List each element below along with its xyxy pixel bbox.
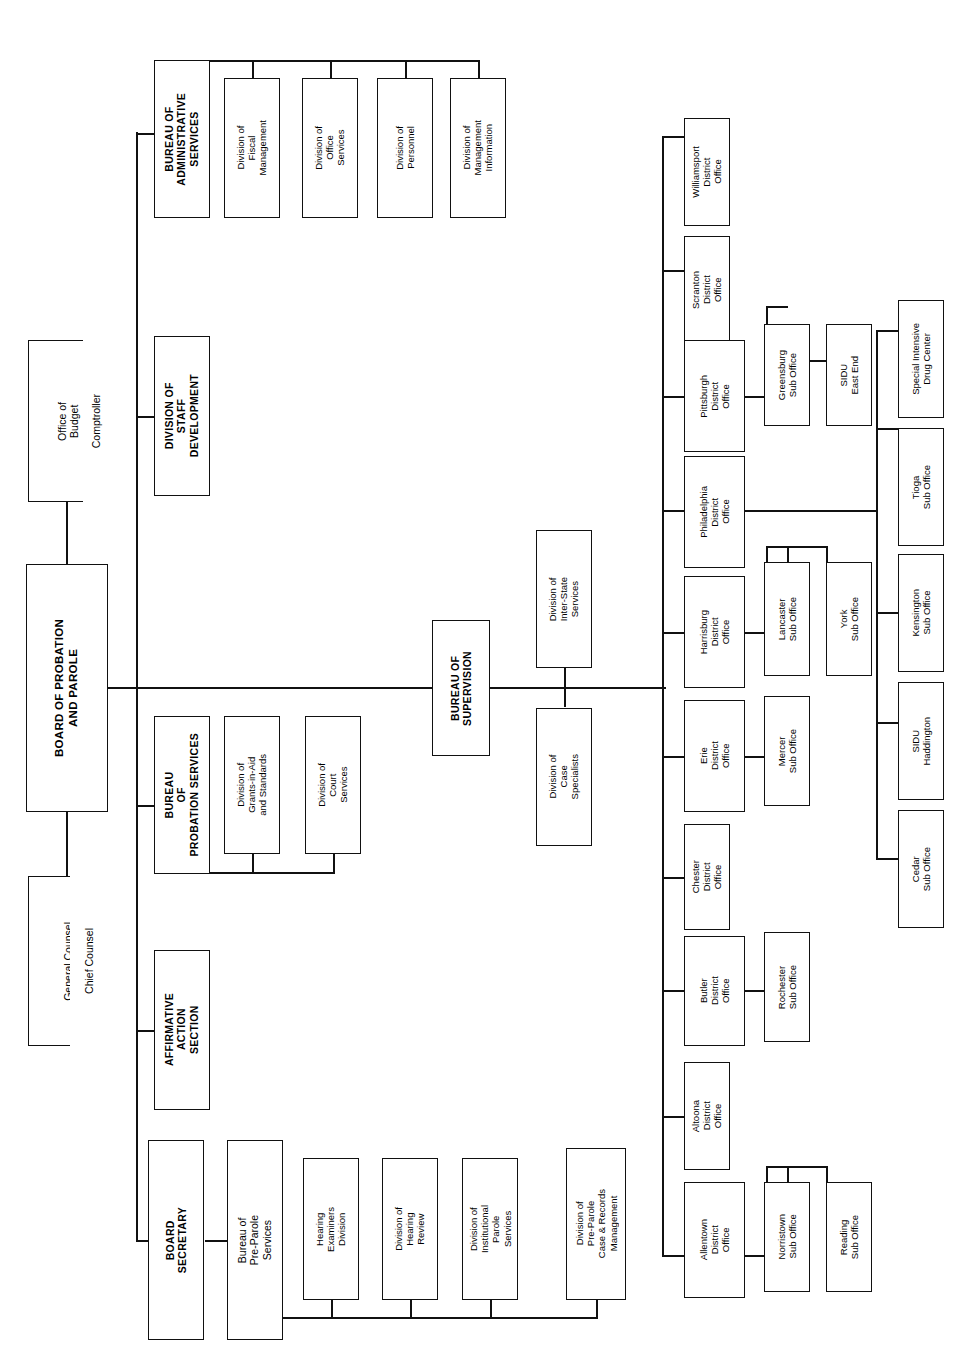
node-label: Allentown District Office	[698, 1219, 732, 1260]
node-label: Rochester Sub Office	[776, 965, 798, 1009]
node-allentown-district-office[interactable]: Allentown District Office	[684, 1182, 745, 1298]
node-board-of-probation-and-parole[interactable]: BOARD OF PROBATION AND PAROLE	[26, 564, 108, 812]
node-hearing-examiners-division[interactable]: Hearing Examiners Division	[303, 1158, 359, 1300]
node-harrisburg-district-office[interactable]: Harrisburg District Office	[684, 576, 745, 688]
node-label: Scranton District Office	[690, 271, 724, 309]
node-label: Division of Fiscal Management	[235, 120, 269, 175]
riser-interstate	[564, 668, 566, 688]
node-label: Division of Institutional Parole Service…	[468, 1205, 513, 1253]
node-cedar-sub-office[interactable]: Cedar Sub Office	[898, 810, 944, 928]
connector-supervision-right	[490, 687, 666, 689]
node-scranton-district-office[interactable]: Scranton District Office	[684, 236, 730, 344]
node-greensburg-sub-office[interactable]: Greensburg Sub Office	[764, 324, 810, 426]
node-bureau-of-supervision[interactable]: BUREAU OF SUPERVISION	[432, 620, 490, 756]
node-erie-district-office[interactable]: Erie District Office	[684, 700, 745, 812]
node-label: Williamsport District Office	[690, 146, 724, 198]
node-tioga-sub-office[interactable]: Tioga Sub Office	[898, 428, 944, 546]
phl-to-special-intensive	[876, 330, 900, 332]
bus-bar-admin	[196, 60, 480, 62]
node-williamsport-district-office[interactable]: Williamsport District Office	[684, 118, 730, 226]
node-label: Mercer Sub Office	[776, 729, 798, 773]
stub-williamsport	[662, 136, 684, 138]
drop-fiscal	[252, 60, 254, 78]
connector-board-to-budget	[66, 500, 68, 564]
node-division-of-grants-in-aid-and-standards[interactable]: Division of Grants-in-Aid and Standards	[224, 716, 280, 854]
node-label: Hearing Examiners Division	[314, 1207, 348, 1252]
stub-scranton	[662, 270, 684, 272]
node-board-secretary[interactable]: BOARD SECRETARY	[148, 1140, 204, 1340]
node-division-of-case-specialists[interactable]: Division of Case Specialists	[536, 708, 592, 846]
stub-pittsburgh	[662, 396, 684, 398]
node-chief-counsel[interactable]: Chief Counsel	[70, 876, 108, 1046]
node-label: BUREAU OF PROBATION SERVICES	[163, 733, 200, 856]
erie-to-mercer	[745, 756, 765, 758]
node-division-of-personnel[interactable]: Division of Personnel	[377, 78, 433, 218]
node-division-of-court-services[interactable]: Division of Court Services	[305, 716, 361, 854]
butler-to-rochester	[745, 990, 765, 992]
node-division-of-inter-state-services[interactable]: Division of Inter-State Services	[536, 530, 592, 668]
node-label: Division of Personnel	[394, 126, 416, 170]
district-spine	[662, 136, 664, 1256]
riser-case-specialists	[564, 687, 566, 707]
node-bureau-of-probation-services[interactable]: BUREAU OF PROBATION SERVICES	[154, 716, 210, 874]
node-label: Norristown Sub Office	[776, 1214, 798, 1259]
node-york-sub-office[interactable]: York Sub Office	[826, 562, 872, 676]
drop-hearing-examiners	[331, 1299, 333, 1318]
stub-chester	[662, 877, 684, 879]
node-label: SIDU Haddington	[910, 717, 932, 766]
node-division-of-fiscal-management[interactable]: Division of Fiscal Management	[224, 78, 280, 218]
stub-allentown	[662, 1255, 684, 1257]
node-label: Reading Sub Office	[838, 1215, 860, 1259]
stub-harrisburg	[662, 632, 684, 634]
phl-to-tioga	[876, 428, 900, 430]
node-chester-district-office[interactable]: Chester District Office	[684, 824, 730, 930]
drop-court-services	[333, 853, 335, 873]
phl-to-kensington	[876, 612, 900, 614]
node-label: Pittsburgh District Office	[698, 375, 732, 418]
node-label: Division of Grants-in-Aid and Standards	[235, 754, 269, 816]
stub-philadelphia	[662, 510, 684, 512]
stub-staff-dev	[136, 416, 154, 418]
drop-personnel	[405, 60, 407, 78]
connector-board-to-counsel	[66, 812, 68, 876]
node-mercer-sub-office[interactable]: Mercer Sub Office	[764, 696, 810, 806]
node-rochester-sub-office[interactable]: Rochester Sub Office	[764, 932, 810, 1042]
node-reading-sub-office[interactable]: Reading Sub Office	[826, 1182, 872, 1292]
node-special-intensive-drug-center[interactable]: Special Intensive Drug Center	[898, 300, 944, 418]
node-label: York Sub Office	[838, 597, 860, 641]
node-butler-district-office[interactable]: Butler District Office	[684, 936, 745, 1046]
node-altoona-district-office[interactable]: Altoona District Office	[684, 1062, 730, 1170]
harrisburg-to-york	[766, 546, 828, 548]
connector-board-to-trunk	[106, 687, 138, 689]
node-division-of-management-information[interactable]: Division of Management Information	[450, 78, 506, 218]
node-label: Chief Counsel	[83, 928, 95, 994]
node-division-of-staff-development[interactable]: DIVISION OF STAFF DEVELOPMENT	[154, 336, 210, 496]
node-kensington-sub-office[interactable]: Kensington Sub Office	[898, 554, 944, 672]
node-pittsburgh-district-office[interactable]: Pittsburgh District Office	[684, 340, 745, 452]
pittsburgh-to-greensburg	[766, 306, 788, 308]
node-lancaster-sub-office[interactable]: Lancaster Sub Office	[764, 562, 810, 676]
node-philadelphia-district-office[interactable]: Philadelphia District Office	[684, 456, 745, 568]
node-division-of-office-services[interactable]: Division of Office Services	[302, 78, 358, 218]
node-sidu-east-end[interactable]: SIDU East End	[826, 324, 872, 426]
node-norristown-sub-office[interactable]: Norristown Sub Office	[764, 1182, 810, 1292]
node-label: Tioga Sub Office	[910, 465, 932, 509]
node-comptroller[interactable]: Comptroller	[83, 340, 109, 502]
bus-bar-preparole	[278, 1317, 598, 1319]
stub-erie	[662, 756, 684, 758]
node-label: Chester District Office	[690, 860, 724, 893]
node-division-of-hearing-review[interactable]: Division of Hearing Review	[382, 1158, 438, 1300]
node-bureau-of-pre-parole-services[interactable]: Bureau of Pre-Parole Services	[227, 1140, 283, 1340]
node-label: Division of Case Specialists	[547, 754, 581, 799]
node-bureau-of-administrative-services[interactable]: BUREAU OF ADMINISTRATIVE SERVICES	[154, 60, 210, 218]
node-label: Comptroller	[90, 394, 102, 448]
node-label: Office of Budget	[56, 402, 81, 441]
node-sidu-haddington[interactable]: SIDU Haddington	[898, 682, 944, 800]
node-label: Erie District Office	[698, 741, 732, 770]
node-division-of-pre-parole-case-records-management[interactable]: Division of Pre-Parole Case & Records Ma…	[566, 1148, 626, 1300]
node-affirmative-action-section[interactable]: AFFIRMATIVE ACTION SECTION	[154, 950, 210, 1110]
stub-butler	[662, 990, 684, 992]
node-division-of-institutional-parole-services[interactable]: Division of Institutional Parole Service…	[462, 1158, 518, 1300]
node-label: DIVISION OF STAFF DEVELOPMENT	[163, 374, 200, 457]
node-label: Greensburg Sub Office	[776, 350, 798, 400]
